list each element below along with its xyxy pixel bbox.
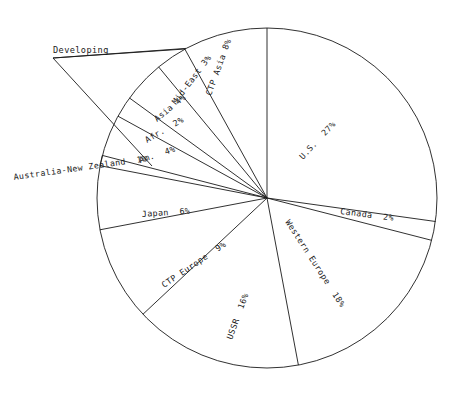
slice-label-ussr: USSR 16% (224, 292, 250, 341)
developing-bracket-lower-arm (53, 58, 152, 166)
slice-label-am: Am. 4% (138, 144, 177, 165)
slice-label-canada: Canada 2% (340, 206, 395, 223)
slice-label-ctp-europe: CTP Europe 9% (160, 239, 228, 290)
slice-label-australia-new-zealand: Australia-New Zealand 1% (13, 153, 148, 182)
slice-label-western-europe: Western Europe 18% (283, 218, 347, 309)
slice-label-us: U.S. 27% (297, 119, 337, 161)
slice-label-ctp-asia: CTP Asia 8% (203, 37, 233, 96)
slice-label-japan: Japan 6% (141, 206, 190, 219)
pie-chart-canvas: U.S. 27% Canada 2% Western Europe 18% US… (0, 0, 450, 395)
divider-japan-australia-new-zealand (100, 166, 267, 198)
slice-label-afr: Afr. 2% (143, 114, 185, 144)
pie-chart-figure: U.S. 27% Canada 2% Western Europe 18% US… (0, 0, 450, 395)
annotation-label-developing: Developing (53, 45, 109, 55)
divider-afr-asia (130, 98, 268, 198)
